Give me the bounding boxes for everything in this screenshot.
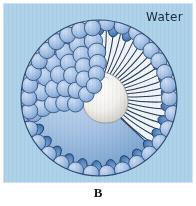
water-label: Water <box>146 10 183 24</box>
figure-panel-b: Water B <box>0 0 196 206</box>
illustration-panel: Water <box>3 3 193 183</box>
micelle-diagram <box>4 4 193 183</box>
panel-caption: B <box>0 185 196 201</box>
